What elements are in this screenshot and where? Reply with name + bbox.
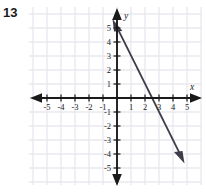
y-tick-label: 2: [107, 65, 111, 75]
y-tick-label: 3: [107, 51, 111, 61]
x-tick-label: -3: [71, 102, 78, 112]
x-tick-label: -5: [43, 102, 50, 112]
x-tick-label: 1: [129, 102, 133, 112]
y-axis-label: y: [123, 11, 129, 21]
x-tick-label: 2: [143, 102, 147, 112]
x-tick-label: -4: [57, 102, 65, 112]
x-tick-label: 4: [171, 102, 176, 112]
y-tick-label: -3: [104, 135, 111, 145]
problem-number: 13: [3, 5, 17, 20]
x-tick-label: 5: [185, 102, 189, 112]
x-tick-label: 3: [157, 102, 161, 112]
x-axis-label: x: [189, 82, 195, 92]
y-tick-label: -5: [104, 163, 111, 173]
graph-svg: -5 -4 -3 -2 -1 1 2 3 4 5 5 4 3 2 1 -1 -2…: [27, 5, 203, 187]
y-tick-label: 1: [107, 79, 111, 89]
grid-lines: [29, 7, 202, 185]
y-tick-label: 5: [107, 23, 111, 33]
y-tick-label: -1: [104, 107, 111, 117]
coordinate-plane-graph: -5 -4 -3 -2 -1 1 2 3 4 5 5 4 3 2 1 -1 -2…: [27, 5, 203, 187]
x-axis: [30, 93, 202, 103]
y-tick-label: -2: [104, 121, 111, 131]
x-tick-label: -2: [85, 102, 92, 112]
y-tick-label: -4: [104, 149, 112, 159]
